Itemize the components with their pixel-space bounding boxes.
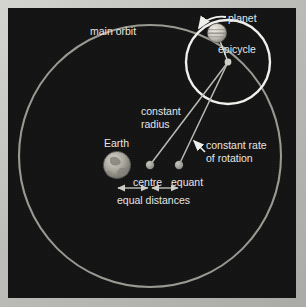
label-planet: planet	[228, 12, 257, 24]
planet-sphere-icon	[207, 23, 226, 42]
diagram-canvas: main orbit planet epicycle constant radi…	[8, 8, 296, 298]
centre-dot	[146, 161, 154, 169]
label-main-orbit: main orbit	[90, 25, 136, 37]
label-earth: Earth	[104, 137, 129, 149]
equant-dot	[175, 161, 183, 169]
pointer-arrow-icon	[194, 141, 205, 152]
ptolemaic-diagram-svg: main orbit planet epicycle constant radi…	[8, 8, 296, 298]
label-centre: centre	[133, 176, 162, 188]
label-epicycle: epicycle	[218, 43, 256, 55]
image-frame: main orbit planet epicycle constant radi…	[0, 0, 306, 307]
epicycle-centre-dot	[225, 59, 232, 66]
label-constant-radius-line1: constant	[141, 105, 181, 117]
label-constant-rate-line2: of rotation	[206, 152, 253, 164]
label-equant: equant	[171, 176, 203, 188]
earth-globe-icon	[103, 151, 130, 178]
label-constant-rate-line1: constant rate	[206, 139, 267, 151]
label-constant-radius-line2: radius	[141, 118, 170, 130]
label-equal-distances: equal distances	[117, 194, 190, 206]
